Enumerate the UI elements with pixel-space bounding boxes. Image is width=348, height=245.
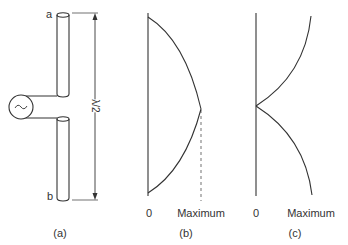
axis-max-label-b: Maximum xyxy=(177,208,225,219)
voltage-curve-bottom xyxy=(256,106,312,195)
caption-b: (b) xyxy=(179,228,192,239)
end-label-a: a xyxy=(46,9,52,20)
half-wavelength-label: λ/2 xyxy=(89,99,101,112)
top-rod xyxy=(57,13,69,97)
current-distribution-plot xyxy=(148,13,201,201)
axis-zero-label-c: 0 xyxy=(253,208,259,219)
caption-a: (a) xyxy=(53,228,66,239)
voltage-distribution-plot xyxy=(256,13,312,196)
caption-c: (c) xyxy=(289,228,302,239)
axis-max-label-c: Maximum xyxy=(287,208,335,219)
end-label-b: b xyxy=(47,191,53,202)
current-curve xyxy=(148,17,201,193)
arrow-down-icon xyxy=(93,193,98,200)
bottom-rod xyxy=(57,117,69,201)
voltage-curve-top xyxy=(256,16,311,106)
dipole-antenna xyxy=(9,13,98,201)
axis-zero-label-b: 0 xyxy=(146,208,152,219)
arrow-up-icon xyxy=(93,13,98,20)
